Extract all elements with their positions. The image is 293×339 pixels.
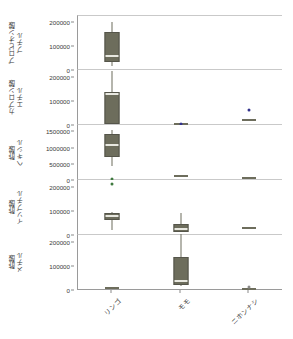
boxplot-box: [103, 70, 121, 125]
y-tick-label: 100000: [49, 263, 70, 270]
facet-row: 酢酸ヘキシル050000010000001500000: [0, 125, 293, 180]
facet-label-line2: ブチル: [17, 22, 25, 64]
y-tick-label: 1000000: [46, 144, 70, 151]
x-tick-mark: [247, 290, 248, 293]
facet-strip-text: 酢酸イソブチル: [9, 190, 25, 225]
x-tick-label: ニホンナシ: [228, 295, 260, 327]
boxplot-box: [103, 16, 121, 71]
outlier-point: [247, 285, 250, 288]
boxplot-box: [172, 16, 190, 71]
facet-label-line2: イソブチル: [17, 190, 25, 225]
whisker-upper: [112, 71, 113, 91]
boxplot-figure: プロピオン酸ブチル0100000200000カプロン酸エチル0100000200…: [0, 0, 293, 339]
median-line: [174, 280, 187, 282]
x-tick-label: リンゴ: [101, 295, 123, 317]
y-tick-label: 0: [67, 287, 70, 294]
boxplot-box: [240, 16, 258, 71]
facet-label-line1: 酢酸: [9, 146, 16, 160]
box-flat: [242, 119, 256, 121]
facet-label-line1: カプロン酸: [9, 80, 16, 115]
y-axis: 0100000200000: [26, 15, 74, 70]
boxplot-box: [172, 235, 190, 290]
outlier-point: [111, 183, 114, 186]
median-line: [106, 144, 119, 146]
box-flat: [242, 177, 256, 179]
y-tick-mark: [71, 163, 74, 164]
y-tick-label: 100000: [49, 43, 70, 50]
boxplot-box: [172, 125, 190, 180]
y-axis: 050000010000001500000: [26, 125, 74, 180]
whisker-upper: [180, 234, 181, 257]
y-tick-mark: [71, 242, 74, 243]
facet-panel: [77, 235, 282, 290]
facet-label-line1: 酢酸: [9, 201, 16, 215]
boxplot-box: [240, 180, 258, 235]
y-tick-mark: [71, 290, 74, 291]
y-tick-mark: [71, 131, 74, 132]
y-axis: 0100000200000: [26, 235, 74, 290]
boxplot-box: [103, 180, 121, 235]
whisker-upper: [112, 22, 113, 32]
y-tick-mark: [71, 187, 74, 188]
y-tick-label: 200000: [49, 19, 70, 26]
facet-panel: [77, 15, 282, 70]
facet-row: プロピオン酸ブチル0100000200000: [0, 15, 293, 70]
x-tick-mark: [111, 290, 112, 293]
facet-row: 酢酸イソブチル0100000200000: [0, 180, 293, 235]
facet-label-line2: エチル: [17, 80, 25, 115]
facet-strip-text: 酢酸ヘキシル: [9, 139, 25, 167]
median-line: [174, 228, 187, 230]
facet-label-line1: 酢酸: [9, 256, 16, 270]
facet-row: カプロン酸エチル0100000200000: [0, 70, 293, 125]
boxplot-box: [103, 125, 121, 180]
facet-label-line2: メチル: [17, 252, 25, 273]
box-flat: [242, 227, 256, 229]
y-tick-mark: [71, 101, 74, 102]
boxplot-box: [240, 70, 258, 125]
y-tick-label: 100000: [49, 98, 70, 105]
x-tick-mark: [179, 290, 180, 293]
boxplot-box: [103, 235, 121, 290]
y-tick-mark: [71, 266, 74, 267]
box-iqr: [105, 92, 120, 124]
facet-strip-text: カプロン酸エチル: [9, 80, 25, 115]
facet-panel: [77, 125, 282, 180]
y-axis: 0100000200000: [26, 180, 74, 235]
y-tick-mark: [71, 77, 74, 78]
y-tick-label: 200000: [49, 239, 70, 246]
y-tick-mark: [71, 211, 74, 212]
facet-panel: [77, 70, 282, 125]
boxplot-box: [172, 180, 190, 235]
whisker-upper: [180, 213, 181, 224]
x-tick-label: モモ: [175, 295, 192, 312]
y-tick-label: 200000: [49, 74, 70, 81]
outlier-point: [247, 109, 250, 112]
x-axis: リンゴモモニホンナシ: [77, 290, 282, 339]
boxplot-box: [240, 125, 258, 180]
y-tick-label: 500000: [49, 160, 70, 167]
box-flat: [105, 287, 119, 289]
boxplot-box: [172, 70, 190, 125]
y-tick-label: 200000: [49, 184, 70, 191]
median-line: [106, 93, 119, 95]
median-line: [106, 215, 119, 217]
facet-label-line2: ヘキシル: [17, 139, 25, 167]
boxplot-box: [240, 235, 258, 290]
y-tick-mark: [71, 22, 74, 23]
facet-label-line1: プロピオン酸: [9, 22, 16, 64]
y-tick-label: 1500000: [46, 128, 70, 135]
y-tick-mark: [71, 147, 74, 148]
y-tick-label: 100000: [49, 208, 70, 215]
y-axis: 0100000200000: [26, 70, 74, 125]
median-line: [106, 55, 119, 57]
facet-strip-text: プロピオン酸ブチル: [9, 22, 25, 64]
y-tick-mark: [71, 46, 74, 47]
facet-strip-text: 酢酸メチル: [9, 252, 25, 273]
facet-row: 酢酸メチル0100000200000: [0, 235, 293, 290]
box-flat: [174, 175, 188, 177]
facet-panel: [77, 180, 282, 235]
